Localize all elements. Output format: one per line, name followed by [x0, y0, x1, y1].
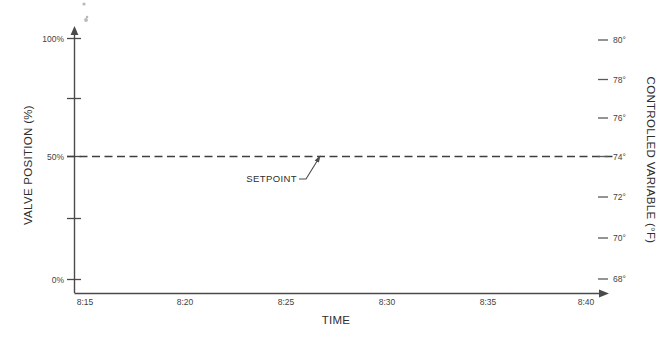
y2-tick-label-78: 78°: [613, 75, 626, 85]
y2-axis-title: CONTROLLED VARIABLE (°F): [645, 77, 657, 244]
y2-tick-label-76: 76°: [613, 113, 626, 123]
y2-tick-label-68: 68°: [613, 274, 626, 284]
y-tick-label-100: 100%: [42, 34, 64, 44]
y2-tick-label-72: 72°: [613, 192, 626, 202]
y2-tick-label-80: 80°: [613, 35, 626, 45]
y-tick-label-50: 50%: [47, 152, 64, 162]
chart-background: [0, 0, 666, 340]
x-axis-title: TIME: [322, 314, 351, 326]
process-control-chart: 100% 50% 0% VALVE POSITION (%) 8:15 8:20…: [0, 0, 666, 340]
scan-speck: [86, 16, 89, 19]
scan-speck: [82, 2, 85, 5]
scan-speck: [84, 18, 88, 22]
x-tick-label-5: 8:40: [578, 297, 595, 307]
x-tick-label-2: 8:25: [278, 297, 295, 307]
x-tick-label-0: 8:15: [77, 297, 94, 307]
x-tick-label-1: 8:20: [177, 297, 194, 307]
x-tick-label-4: 8:35: [480, 297, 497, 307]
y-axis-title: VALVE POSITION (%): [22, 105, 34, 225]
setpoint-annotation-label: SETPOINT: [246, 173, 297, 184]
y2-tick-label-70: 70°: [613, 233, 626, 243]
y-tick-label-0: 0%: [52, 275, 65, 285]
chart-container: 100% 50% 0% VALVE POSITION (%) 8:15 8:20…: [0, 0, 666, 340]
x-tick-label-3: 8:30: [379, 297, 396, 307]
y2-tick-label-74: 74°: [613, 152, 626, 162]
